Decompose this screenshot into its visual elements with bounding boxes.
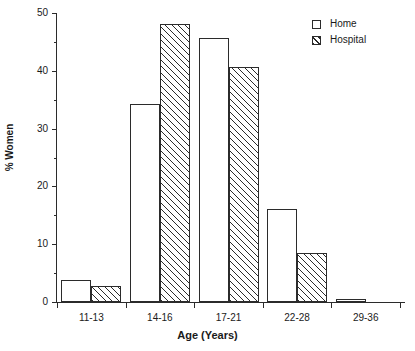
bar-hospital-17-21 (229, 67, 259, 302)
x-tick-mark (126, 303, 127, 308)
y-axis-title: % Women (4, 108, 15, 188)
y-tick-label: 50 (37, 6, 48, 19)
bar-home-11-13 (61, 280, 91, 302)
bar-hospital-11-13 (91, 286, 121, 302)
legend-swatch-hospital-icon (312, 36, 321, 45)
chart-legend: Home Hospital (312, 17, 366, 49)
x-tick-mark (400, 303, 401, 308)
legend-item-hospital: Hospital (312, 33, 366, 47)
bar-home-14-16 (130, 104, 160, 302)
x-tick-label: 29-36 (326, 311, 406, 324)
bar-hospital-22-28 (297, 253, 327, 302)
y-tick-label: 40 (37, 64, 48, 77)
x-tick-mark (57, 303, 58, 308)
legend-swatch-home-icon (312, 20, 321, 29)
y-tick-label: 30 (37, 122, 48, 135)
bar-chart: 01020304050 11-1314-1617-2122-2829-36 Ag… (0, 0, 415, 351)
bar-home-29-36 (336, 299, 366, 302)
y-tick-label: 10 (37, 237, 48, 250)
plot-area (57, 13, 400, 302)
bar-home-22-28 (267, 209, 297, 302)
x-tick-mark (194, 303, 195, 308)
x-axis-title: Age (Years) (0, 329, 415, 341)
y-tick-label: 0 (42, 295, 48, 308)
y-tick-label: 20 (37, 179, 48, 192)
legend-label-hospital: Hospital (330, 34, 366, 46)
bar-hospital-14-16 (160, 24, 190, 302)
legend-label-home: Home (330, 18, 357, 30)
x-tick-mark (331, 303, 332, 308)
x-tick-mark (263, 303, 264, 308)
bar-home-17-21 (199, 38, 229, 302)
legend-item-home: Home (312, 17, 366, 31)
x-axis-line (56, 302, 405, 303)
